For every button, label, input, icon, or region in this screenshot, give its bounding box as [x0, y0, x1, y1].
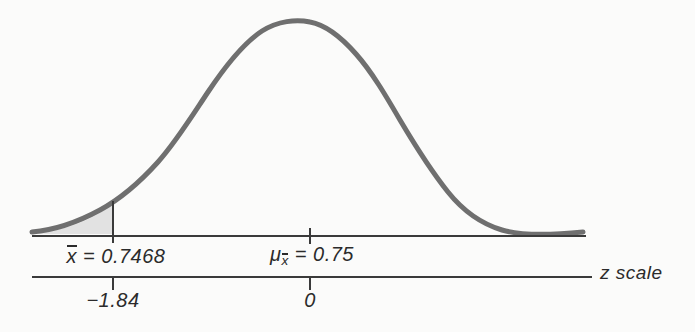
normal-distribution-figure: x = 0.7468 μx = 0.75 −1.84 0 z scale: [0, 0, 695, 332]
mu-subscript-xbar: x: [281, 253, 288, 268]
mu-equation-text: = 0.75: [295, 243, 354, 265]
z-scale-axis-label: z scale: [600, 262, 663, 284]
mu-value-label: μx = 0.75: [196, 243, 428, 268]
overline-bar: [282, 253, 289, 255]
xbar-letter: x: [67, 245, 78, 267]
distribution-plot: [0, 0, 695, 332]
xbar-equation-text: = 0.7468: [83, 245, 165, 267]
z-tick-label-zero: 0: [225, 289, 395, 312]
xbar-overline-symbol: x: [67, 245, 78, 268]
mu-subscript-letter: x: [281, 253, 288, 268]
mu-letter: μ: [270, 243, 281, 265]
z-tick-label-negative: −1.84: [28, 289, 198, 312]
overline-bar: [67, 245, 77, 247]
normal-curve: [32, 21, 583, 235]
